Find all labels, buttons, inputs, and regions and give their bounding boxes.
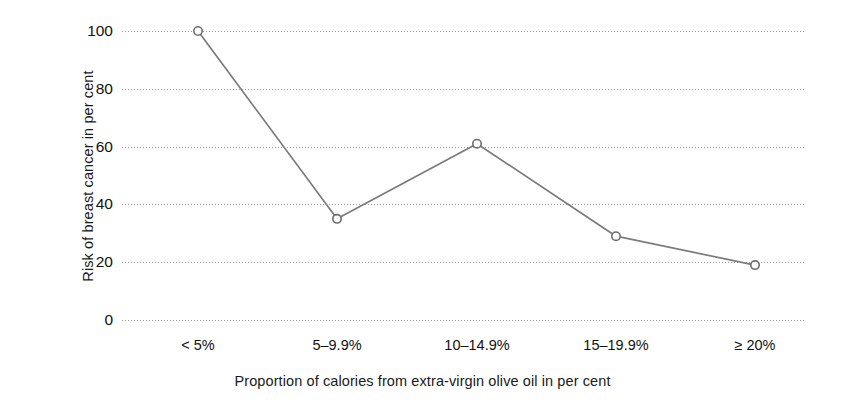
y-tick-label: 40 [96, 195, 113, 213]
y-tick-label: 20 [96, 253, 113, 271]
data-point-marker [751, 261, 759, 269]
y-tick-label: 60 [96, 138, 113, 156]
x-axis-title: Proportion of calories from extra-virgin… [0, 373, 845, 389]
chart-figure: Risk of breast cancer in per cent 100 80… [0, 0, 845, 406]
x-tick-label: 10–14.9% [444, 337, 509, 353]
plot-area: 100 80 60 40 20 0 [122, 31, 805, 320]
series-markers [194, 27, 759, 269]
data-series-line [122, 31, 805, 320]
data-point-marker [473, 140, 481, 148]
x-tick-label: < 5% [181, 337, 214, 353]
y-tick-label: 0 [104, 311, 113, 329]
data-point-marker [612, 232, 620, 240]
data-point-marker [333, 215, 341, 223]
y-axis-title: Risk of breast cancer in per cent [80, 26, 96, 326]
y-tick-label: 100 [87, 22, 113, 40]
y-tick-label: 80 [96, 80, 113, 98]
x-tick-label: 15–19.9% [583, 337, 648, 353]
gridline: 0 [122, 320, 805, 321]
x-tick-label: 5–9.9% [312, 337, 361, 353]
data-point-marker [194, 27, 202, 35]
x-tick-label: ≥ 20% [734, 337, 775, 353]
